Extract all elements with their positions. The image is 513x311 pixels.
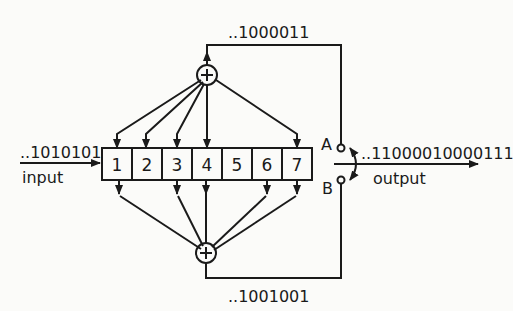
- input-bits: ..1010101: [20, 143, 101, 162]
- register-cell-5: 5: [232, 155, 243, 175]
- bottom-sequence: ..1001001: [228, 287, 309, 306]
- output-bits: ..11000010000111: [361, 144, 513, 163]
- top-taps: [117, 80, 297, 148]
- register-cell-3: 3: [172, 155, 183, 175]
- input-label: input: [22, 168, 63, 187]
- output-label: output: [373, 169, 426, 188]
- register-cell-7: 7: [292, 155, 303, 175]
- bottom-output-path: [206, 184, 341, 278]
- top-output-path: [207, 45, 341, 144]
- register-cell-2: 2: [142, 155, 153, 175]
- top-sequence: ..1000011: [228, 23, 309, 42]
- switch-terminal-a: [338, 145, 345, 152]
- terminal-a-label: A: [321, 135, 332, 154]
- terminal-b-label: B: [322, 179, 333, 198]
- switch-terminal-b: [338, 177, 345, 184]
- register-cell-4: 4: [202, 155, 213, 175]
- register-cell-1: 1: [112, 155, 123, 175]
- register-cell-6: 6: [262, 155, 273, 175]
- convolutional-encoder-diagram: 1 2 3 4 5 6 7 ..1010101 input ..1000011 …: [0, 0, 513, 311]
- bottom-taps: [119, 180, 297, 250]
